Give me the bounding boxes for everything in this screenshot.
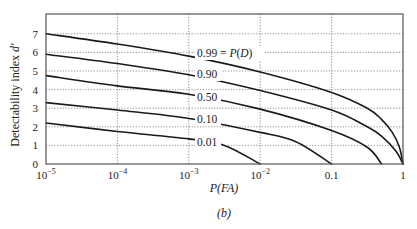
detectability-chart: 0.99 = P(D)0.900.500.100.01 01234567 10−… bbox=[0, 0, 417, 229]
figure-caption: (b) bbox=[217, 206, 231, 220]
y-tick-label: 6 bbox=[33, 46, 39, 58]
x-tick-label: 1 bbox=[400, 169, 406, 181]
y-tick-label: 7 bbox=[33, 28, 39, 40]
grid-lines bbox=[46, 14, 403, 164]
curve-label-0.10: 0.10 bbox=[197, 113, 217, 125]
x-tick-label: 0.1 bbox=[325, 169, 339, 181]
curve-label-0.99: 0.99 = P(D) bbox=[197, 47, 253, 60]
x-tick-label: 10−2 bbox=[250, 167, 270, 181]
y-axis-label: Detectability index d′ bbox=[8, 43, 22, 147]
x-axis-label: P(FA) bbox=[209, 181, 238, 195]
curve-label-0.50: 0.50 bbox=[197, 91, 217, 103]
x-tick-label: 10−5 bbox=[36, 167, 56, 181]
curve-pd-0.01 bbox=[46, 123, 260, 164]
curve-label-0.01: 0.01 bbox=[197, 136, 217, 148]
y-axis-ticks: 01234567 bbox=[33, 28, 39, 170]
curve-labels: 0.99 = P(D)0.900.500.100.01 bbox=[195, 47, 263, 149]
y-tick-label: 3 bbox=[33, 102, 39, 114]
curve-label-0.90: 0.90 bbox=[197, 68, 217, 80]
y-tick-label: 2 bbox=[33, 121, 39, 133]
x-tick-label: 10−4 bbox=[108, 167, 128, 181]
plot-frame bbox=[46, 14, 403, 164]
y-tick-label: 4 bbox=[33, 84, 39, 96]
x-axis-ticks: 10−510−410−310−20.11 bbox=[36, 167, 406, 181]
y-tick-label: 1 bbox=[33, 139, 39, 151]
x-tick-label: 10−3 bbox=[179, 167, 199, 181]
y-tick-label: 5 bbox=[33, 65, 39, 77]
